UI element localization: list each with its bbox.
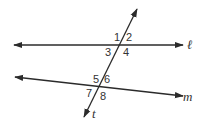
- angle-8-label: 8: [100, 90, 106, 102]
- angle-7-label: 7: [86, 87, 92, 99]
- angle-2-label: 2: [126, 31, 132, 43]
- angle-5-label: 5: [93, 73, 99, 85]
- line-t-label: t: [92, 106, 96, 121]
- diagram-canvas: 1 2 3 4 5 6 7 8 ℓ m t: [0, 0, 205, 127]
- line-m-label: m: [183, 89, 192, 104]
- angle-6-label: 6: [104, 73, 110, 85]
- angle-4-label: 4: [123, 46, 129, 58]
- angle-1-label: 1: [114, 31, 120, 43]
- line-l-label: ℓ: [187, 37, 193, 52]
- transversal-t: [84, 9, 137, 117]
- angle-3-label: 3: [105, 46, 111, 58]
